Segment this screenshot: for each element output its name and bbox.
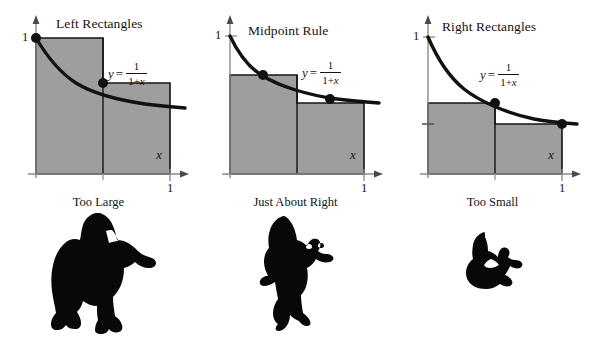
bar-1 — [36, 38, 103, 174]
bear-silhouette-icon — [249, 210, 343, 332]
bar-2 — [297, 103, 364, 174]
sample-point-2 — [325, 94, 335, 104]
fraction-numerator: 1 — [320, 60, 341, 71]
x-axis-label: x — [156, 148, 162, 161]
panel-midpoint-rule: Midpoint Rule 1 1 x y=11+x Just About Ri… — [197, 0, 394, 200]
x-tick-label-1: 1 — [167, 182, 173, 195]
y-axis-arrow-icon — [425, 15, 432, 24]
y-tick-label-1: 1 — [215, 29, 221, 42]
x-tick-label-1: 1 — [361, 182, 367, 195]
function-label-fraction: 11+x — [126, 61, 147, 87]
y-tick-label-1: 1 — [22, 31, 28, 44]
function-label-fraction: 11+x — [498, 62, 519, 88]
function-label-y: y — [480, 67, 486, 82]
x-axis-arrow-icon — [572, 171, 581, 178]
panel-title: Right Rectangles — [442, 20, 536, 34]
panel-caption: Too Large — [0, 196, 197, 209]
function-label: y=11+x — [108, 62, 147, 88]
x-axis-arrow-icon — [374, 171, 383, 178]
fraction-numerator: 1 — [498, 62, 519, 73]
x-axis-arrow-icon — [180, 171, 189, 178]
bear-standing-large — [0, 210, 197, 339]
fraction-bar — [498, 74, 519, 75]
panel-left-rectangles: Left Rectangles 1 1 x y=11+x Too Large — [0, 0, 197, 200]
sample-point-2 — [98, 78, 108, 88]
panel-right-rectangles: Right Rectangles 1 1 x y=11+x Too Small — [394, 0, 591, 200]
panel-title: Midpoint Rule — [248, 24, 328, 38]
bar-1 — [428, 103, 495, 174]
fraction-bar — [320, 72, 341, 73]
function-label-y: y — [302, 65, 308, 80]
fraction-numerator: 1 — [126, 61, 147, 72]
bear-standing-medium — [197, 210, 394, 339]
function-label-y: y — [108, 66, 114, 81]
sample-point-1 — [490, 98, 500, 108]
bear-small — [394, 228, 591, 339]
function-label: y=11+x — [480, 63, 519, 89]
panel-caption: Too Small — [394, 196, 591, 209]
fraction-bar — [126, 73, 147, 74]
y-tick-label-1: 1 — [413, 30, 419, 43]
fraction-denominator: 1+x — [498, 76, 519, 88]
bear-silhouette-icon — [34, 210, 164, 336]
x-axis-label: x — [548, 148, 554, 161]
x-axis-label: x — [350, 148, 356, 161]
panel-caption: Just About Right — [197, 196, 394, 209]
sample-point-1 — [258, 70, 268, 80]
sample-point-1 — [31, 33, 41, 43]
bear-silhouette-icon — [457, 228, 529, 298]
y-axis-arrow-icon — [33, 15, 40, 24]
function-label-fraction: 11+x — [320, 60, 341, 86]
x-tick-label-1: 1 — [559, 182, 565, 195]
sample-point-2 — [557, 119, 567, 129]
panel-title: Left Rectangles — [56, 17, 143, 31]
fraction-denominator: 1+x — [126, 75, 147, 87]
y-axis-arrow-icon — [227, 15, 234, 24]
riemann-sum-figure: Left Rectangles 1 1 x y=11+x Too Large — [0, 0, 592, 339]
fraction-denominator: 1+x — [320, 74, 341, 86]
function-label: y=11+x — [302, 61, 341, 87]
bar-1 — [230, 75, 297, 174]
